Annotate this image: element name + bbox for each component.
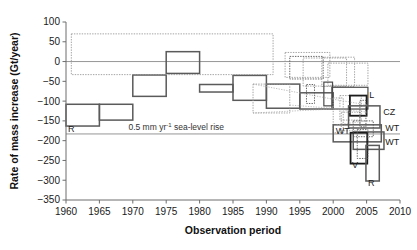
sea-level-rise-annotation: 0.5 mm yr-1 sea-level rise	[128, 122, 224, 132]
x-tick-label-2000: 2000	[322, 206, 345, 217]
x-tick-label-1975: 1975	[155, 206, 178, 217]
x-tick-label-1980: 1980	[188, 206, 211, 217]
x-tick-label-1985: 1985	[222, 206, 245, 217]
x-tick-label-1995: 1995	[289, 206, 312, 217]
x-tick-label-1990: 1990	[255, 206, 278, 217]
box-label-l-1: L	[369, 90, 374, 100]
x-tick-label-1960: 1960	[55, 206, 78, 217]
x-tick-label-2005: 2005	[355, 206, 378, 217]
annotations-group: 0.5 mm yr-1 sea-level rise	[128, 122, 224, 132]
y-tick-label--150: −150	[37, 115, 60, 126]
y-tick-label--200: −200	[37, 135, 60, 146]
box-label-r-6: R	[368, 178, 375, 188]
y-tick-label--350: −350	[37, 194, 60, 205]
box-label-wt-3: WT	[385, 123, 399, 133]
y-tick-label-50: 50	[49, 36, 61, 47]
box-label-wt-7: WT	[336, 126, 350, 136]
y-tick-label--50: −50	[43, 76, 60, 87]
y-tick-label--100: −100	[37, 96, 60, 107]
y-tick-label--250: −250	[37, 155, 60, 166]
x-tick-label-1970: 1970	[122, 206, 145, 217]
slr-text-main: 0.5 mm yr	[128, 122, 166, 132]
chart-figure: 100500−50−100−150−200−250−300−3501960196…	[0, 0, 417, 250]
box-label-r-0: R	[68, 124, 75, 134]
slr-text-rest: sea-level rise	[172, 122, 225, 132]
y-tick-label-0: 0	[54, 56, 60, 67]
x-tick-label-1965: 1965	[88, 206, 111, 217]
box-label-cz-2: CZ	[383, 107, 395, 117]
mass-balance-chart: 100500−50−100−150−200−250−300−3501960196…	[0, 0, 417, 250]
y-axis-title: Rate of mass increase (Gt/year)	[8, 33, 20, 190]
box-label-wt-4: WT	[385, 137, 399, 147]
y-tick-label--300: −300	[37, 175, 60, 186]
y-tick-label-100: 100	[43, 16, 60, 27]
x-axis-title: Observation period	[185, 224, 281, 236]
x-tick-label-2010: 2010	[389, 206, 412, 217]
box-label-v-5: V	[352, 160, 358, 170]
